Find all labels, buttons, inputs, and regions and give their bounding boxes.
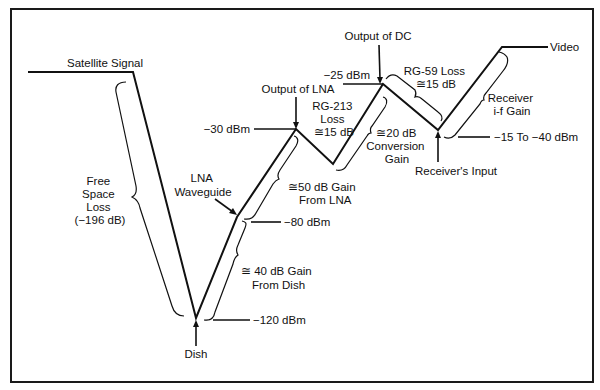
label-dish-gain: ≅ 40 dB Gain From Dish — [241, 265, 315, 291]
label-lna-waveguide: LNA Waveguide — [174, 172, 231, 198]
label-receivers-input: Receiver's Input — [415, 165, 498, 177]
dish-arrow-icon — [193, 320, 199, 346]
signal-level-diagram: Satellite Signal Free Space Loss (−196 d… — [0, 0, 600, 390]
label-dc-output-level: −25 dBm — [324, 69, 370, 81]
output-of-lna-arrow-icon — [293, 97, 299, 129]
label-receiver-input-level: −15 To −40 dBm — [494, 131, 578, 143]
label-free-space-loss: Free Space Loss (−196 dB) — [75, 175, 126, 226]
label-receiver-if-gain: Receiver i-f Gain — [488, 92, 537, 117]
lna-waveguide-arrow-icon — [215, 199, 237, 215]
label-dish: Dish — [184, 348, 207, 360]
label-lna-input-level: −80 dBm — [284, 216, 330, 228]
label-output-of-dc: Output of DC — [344, 30, 411, 42]
label-rg59-loss: RG-59 Loss ≅15 dB — [404, 65, 469, 90]
label-rg213-loss: RG-213 Loss ≅15 dB — [312, 100, 355, 138]
receivers-input-arrow-icon — [435, 131, 441, 162]
label-dish-level: −120 dBm — [253, 314, 306, 326]
label-satellite-signal: Satellite Signal — [67, 57, 143, 69]
dish-gain-brace — [204, 221, 246, 320]
label-lna-gain: ≅50 dB Gain From LNA — [288, 181, 359, 206]
label-lna-output-level: −30 dBm — [204, 123, 250, 135]
label-output-of-lna: Output of LNA — [262, 83, 335, 95]
lna-gain-brace — [244, 136, 298, 219]
label-conversion-gain: ≅20 dB Conversion Gain — [366, 127, 427, 165]
output-of-dc-arrow-icon — [377, 45, 383, 84]
free-space-loss-brace — [116, 82, 184, 316]
label-video: Video — [550, 41, 579, 53]
